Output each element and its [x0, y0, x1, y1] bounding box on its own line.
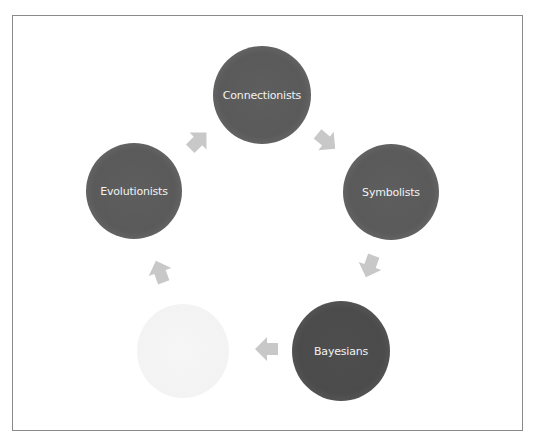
node-bayesians: Bayesians — [292, 301, 390, 401]
node-unlabeled — [137, 304, 229, 398]
node-label: Evolutionists — [100, 185, 168, 198]
node-label: Bayesians — [314, 345, 368, 358]
node-label: Symbolists — [362, 186, 420, 199]
node-connectionists: Connectionists — [213, 46, 311, 144]
node-symbolists: Symbolists — [343, 144, 439, 240]
node-label: Connectionists — [223, 89, 301, 102]
arrow-bayesians-to-unlabeled-icon — [254, 336, 280, 362]
node-evolutionists: Evolutionists — [86, 143, 182, 239]
